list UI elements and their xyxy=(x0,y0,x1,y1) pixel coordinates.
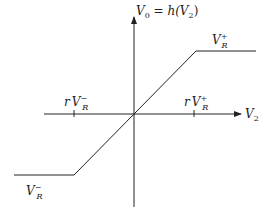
x-axis-label: V2 xyxy=(245,107,259,123)
y-axis-label: V0 = h(V2) xyxy=(136,4,198,20)
transfer-characteristic-diagram: V0 = h(V2) V2 V+R V−R rV−R rV+R xyxy=(0,0,270,218)
tick-positive-label: rV+R xyxy=(184,94,208,112)
lower-plateau-label: V−R xyxy=(26,183,42,201)
upper-plateau-label: V+R xyxy=(212,32,227,50)
tick-negative-label: rV−R xyxy=(64,94,88,112)
transfer-curve xyxy=(14,51,256,175)
